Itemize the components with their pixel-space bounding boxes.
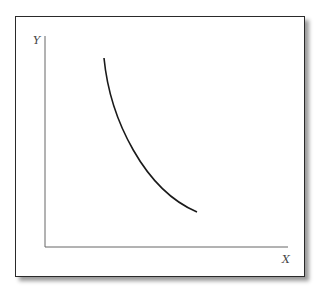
y-axis-label: Y: [33, 34, 40, 47]
curve: [104, 58, 197, 212]
x-axis-label: X: [282, 253, 290, 266]
diagram-canvas: [0, 0, 319, 291]
